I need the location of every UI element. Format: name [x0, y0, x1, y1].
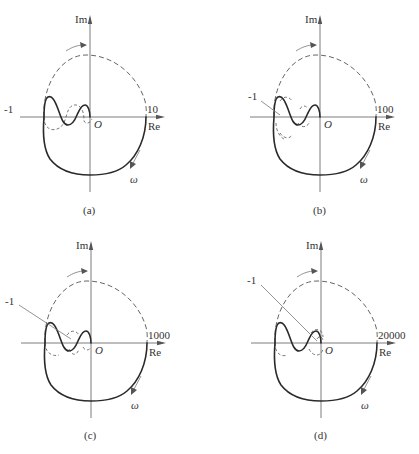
omega-arrow-icon — [130, 161, 136, 169]
re-label: Re — [148, 120, 160, 132]
panel-c: -1 1000 Re Im O ω (c) — [5, 239, 171, 442]
dashed-contour — [274, 55, 376, 117]
direction-arrow-icon — [310, 42, 317, 48]
omega-label: ω — [360, 173, 368, 185]
panel-b: -1 100 Re Im O ω (b) — [248, 13, 395, 217]
caption: (d) — [314, 429, 327, 442]
im-axis-arrow-icon — [318, 15, 322, 24]
im-axis-arrow-icon — [319, 241, 323, 250]
origin-label: O — [95, 344, 103, 356]
re-axis-arrow-icon — [386, 115, 395, 119]
minus-one-label: -1 — [4, 103, 13, 115]
im-axis-arrow-icon — [88, 15, 92, 24]
omega-label: ω — [361, 399, 369, 411]
caption: (c) — [84, 429, 97, 442]
im-label: Im — [306, 239, 319, 251]
re-label: Re — [379, 346, 391, 358]
im-label: Im — [76, 239, 89, 251]
minus-one-label: -1 — [5, 295, 14, 307]
minus-one-leader — [261, 101, 280, 115]
minus-one-label: -1 — [248, 90, 257, 102]
re-label: Re — [378, 120, 390, 132]
dashed-contour — [44, 55, 146, 117]
omega-arrow-icon — [361, 387, 367, 395]
re-axis-arrow-icon — [387, 341, 396, 345]
caption: (b) — [313, 204, 326, 217]
re-label: Re — [149, 346, 161, 358]
direction-arrow-icon — [80, 42, 87, 48]
caption: (a) — [83, 204, 96, 217]
omega-arrow-icon — [131, 387, 137, 395]
minus-one-label: -1 — [247, 274, 256, 286]
direction-arrow-icon — [81, 268, 88, 274]
re-axis-arrow-icon — [157, 341, 166, 345]
minus-one-leader — [261, 285, 317, 341]
im-label: Im — [75, 13, 88, 25]
gain-label: 10 — [147, 103, 159, 115]
dashed-contour — [45, 281, 147, 343]
panel-d: -1 20000 Re Im O ω (d) — [247, 239, 406, 442]
omega-arrow-icon — [360, 161, 366, 169]
omega-label: ω — [131, 399, 139, 411]
origin-label: O — [94, 118, 102, 130]
re-axis-arrow-icon — [156, 115, 165, 119]
omega-label: ω — [130, 173, 138, 185]
dashed-contour — [275, 281, 377, 343]
im-axis-arrow-icon — [89, 241, 93, 250]
origin-label: O — [325, 344, 333, 356]
nyquist-figure: -1 10 Re Im O ω (a) -1 100 Re Im O ω (b) — [0, 0, 419, 454]
gain-label: 20000 — [378, 329, 406, 341]
panel-a: -1 10 Re Im O ω (a) — [4, 13, 165, 217]
im-label: Im — [305, 13, 318, 25]
direction-arrow-icon — [311, 268, 318, 274]
origin-label: O — [324, 118, 332, 130]
gain-label: 1000 — [148, 329, 171, 341]
gain-label: 100 — [377, 103, 394, 115]
